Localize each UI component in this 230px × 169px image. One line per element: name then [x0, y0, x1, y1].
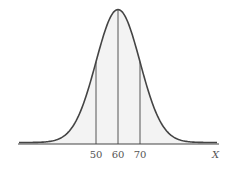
x-tick-label-60: 60	[112, 149, 125, 160]
x-tick-label-70: 70	[134, 149, 147, 160]
x-tick-labels: 506070	[90, 149, 147, 160]
normal-distribution-chart: 506070 X	[0, 0, 230, 169]
x-tick-label-50: 50	[90, 149, 103, 160]
x-axis-label: X	[211, 149, 220, 160]
